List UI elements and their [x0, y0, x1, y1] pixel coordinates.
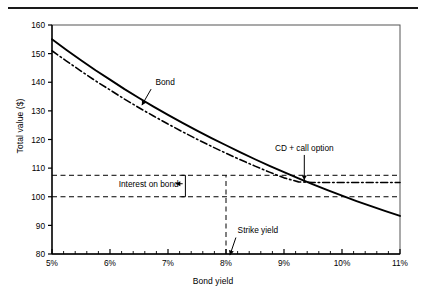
reference-lines: [52, 175, 400, 254]
interest-on-bond-bracket: [181, 175, 185, 196]
y-tick-label: 100: [31, 192, 45, 202]
chart-plot: 80901001101201301401501605%6%7%8%9%10%11…: [0, 0, 426, 300]
x-tick-label: 10%: [334, 258, 351, 268]
x-tick-label: 5%: [46, 258, 59, 268]
figure-container: Total value ($) Bond yield 8090100110120…: [0, 0, 426, 300]
y-tick-label: 110: [32, 163, 46, 173]
interest-on-bond-label: Interest on bond: [119, 179, 179, 189]
x-tick-label: 11%: [392, 258, 409, 268]
y-tick-label: 80: [36, 249, 46, 259]
y-tick-label: 130: [31, 106, 45, 116]
x-tick-label: 9%: [278, 258, 291, 268]
data-series: [52, 39, 400, 216]
y-tick-label: 150: [31, 49, 45, 59]
cd-call-option-label: CD + call option: [275, 143, 334, 153]
y-tick-label: 120: [31, 135, 45, 145]
y-tick-label: 160: [31, 20, 45, 30]
y-tick-label: 90: [36, 221, 46, 231]
x-tick-label: 7%: [162, 258, 175, 268]
x-tick-label: 6%: [104, 258, 117, 268]
strike-yield-label: Strike yield: [238, 225, 279, 235]
y-tick-label: 140: [31, 77, 45, 87]
series-bond: [52, 39, 400, 216]
axis-ticks: [48, 25, 400, 254]
x-tick-label: 8%: [220, 258, 233, 268]
series-cd-call-option: [52, 51, 400, 183]
axis-tick-labels: 80901001101201301401501605%6%7%8%9%10%11…: [31, 20, 408, 268]
bond-label: Bond: [155, 77, 175, 87]
